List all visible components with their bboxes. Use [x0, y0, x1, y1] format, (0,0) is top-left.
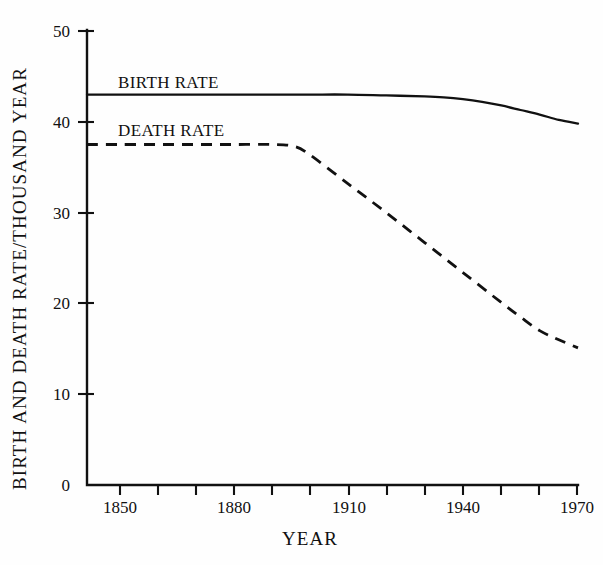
x-axis-title: YEAR	[282, 528, 338, 549]
death-rate-curve	[87, 144, 578, 348]
y-tick-label: 30	[53, 204, 70, 223]
axis-lines	[87, 30, 578, 485]
y-tick-label: 0	[62, 476, 71, 495]
birth-rate-curve	[87, 94, 578, 123]
chart-plot-area: BIRTH AND DEATH RATE/THOUSAND YEAR 50 40…	[0, 0, 603, 565]
birth-death-rate-chart: BIRTH AND DEATH RATE/THOUSAND YEAR 50 40…	[0, 0, 603, 565]
y-axis-title: BIRTH AND DEATH RATE/THOUSAND YEAR	[9, 67, 30, 490]
y-tick-label: 10	[53, 385, 70, 404]
x-tick-label: 1850	[103, 498, 137, 517]
y-tick-label: 40	[53, 113, 70, 132]
x-tick-label: 1880	[217, 498, 251, 517]
y-tick-label: 20	[53, 294, 70, 313]
x-tick-label: 1970	[560, 498, 594, 517]
death-rate-label: DEATH RATE	[118, 121, 224, 140]
birth-rate-label: BIRTH RATE	[118, 73, 219, 92]
y-tick-label: 50	[53, 22, 70, 41]
x-axis-ticks	[120, 485, 577, 495]
y-axis-tick-labels: 50 40 30 20 10 0	[53, 22, 70, 495]
x-axis-tick-labels: 1850 1880 1910 1940 1970	[103, 498, 594, 517]
x-tick-label: 1910	[332, 498, 366, 517]
x-tick-label: 1940	[446, 498, 480, 517]
